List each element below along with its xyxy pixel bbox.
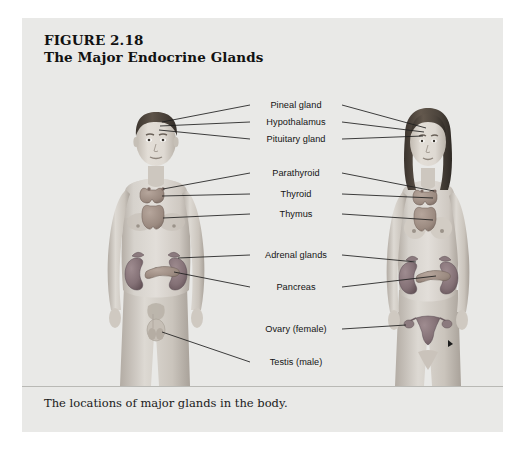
male-testis	[147, 303, 165, 341]
figure-panel: FIGURE 2.18 The Major Endocrine Glands	[22, 18, 503, 432]
female-pupil-left	[421, 140, 423, 142]
female-neck	[421, 168, 435, 189]
female-hand-left	[388, 310, 400, 330]
male-neck	[148, 166, 164, 187]
endocrine-anatomy-illustration	[22, 18, 503, 386]
male-nipple-left	[136, 224, 140, 228]
caption-divider	[22, 386, 503, 387]
label-testis-male: Testis (male)	[270, 357, 323, 367]
label-pineal-gland: Pineal gland	[270, 100, 321, 110]
label-pancreas: Pancreas	[276, 282, 315, 292]
male-figure	[108, 112, 205, 386]
male-pupil-left	[148, 139, 151, 142]
illustration-stage: Pineal gland Hypothalamus Pituitary glan…	[22, 18, 503, 386]
label-adrenal-glands: Adrenal glands	[265, 250, 327, 260]
label-hypothalamus: Hypothalamus	[266, 117, 325, 127]
male-nipple-right	[172, 224, 176, 228]
female-pupil-right	[433, 140, 435, 142]
male-pupil-right	[162, 139, 165, 142]
female-nipple-left	[412, 229, 416, 233]
male-ear-left	[133, 137, 138, 147]
figure-caption: The locations of major glands in the bod…	[44, 396, 288, 410]
male-hand-left	[109, 308, 121, 328]
label-parathyroid: Parathyroid	[272, 168, 320, 178]
female-figure	[387, 108, 470, 386]
female-hand-right	[456, 310, 468, 330]
male-hand-right	[191, 308, 203, 328]
label-thyroid: Thyroid	[281, 189, 312, 199]
male-thymus	[142, 205, 164, 229]
male-ear-right	[173, 137, 178, 147]
leader-parathyroid-male	[163, 173, 250, 189]
leader-pineal-male	[162, 105, 250, 122]
label-pituitary-gland: Pituitary gland	[267, 134, 326, 144]
label-thymus: Thymus	[280, 209, 313, 219]
label-ovary-female: Ovary (female)	[265, 324, 326, 334]
female-nipple-right	[440, 229, 444, 233]
